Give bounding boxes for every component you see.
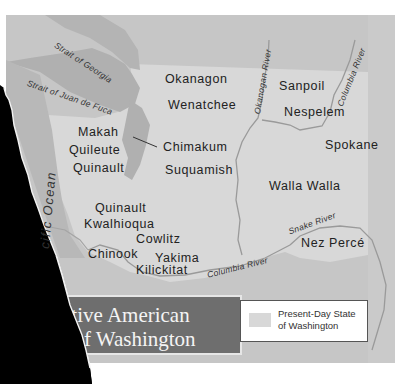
tribe-cowlitz: Cowlitz — [136, 232, 180, 246]
map-right-strip — [368, 15, 395, 363]
tribe-walla-walla: Walla Walla — [269, 179, 341, 193]
map-title-box: ative American s of Washington — [30, 295, 242, 355]
tribe-kilickitat: Kilickitat — [136, 263, 188, 277]
map-title-line-1: ative American — [62, 303, 190, 328]
tribe-nez-perce: Nez Percé — [301, 236, 365, 250]
tribe-kwalhioqua: Kwalhioqua — [84, 217, 155, 231]
tribe-sanpoil: Sanpoil — [279, 79, 325, 93]
legend-swatch-washington — [249, 313, 271, 327]
tribe-wenatchee: Wenatchee — [168, 98, 236, 112]
map-legend: Present-Day State of Washington — [240, 300, 368, 342]
tribe-nespelem: Nespelem — [284, 105, 345, 119]
tribe-spokane: Spokane — [325, 138, 379, 152]
tribe-makah: Makah — [78, 125, 119, 139]
tribe-okanagon: Okanagon — [165, 72, 227, 86]
tribe-quileute: Quileute — [69, 143, 120, 157]
tribe-chinook: Chinook — [88, 247, 138, 261]
map-title-line-2: s of Washington — [60, 327, 196, 352]
tribe-quinault-north: Quinault — [73, 161, 124, 175]
legend-label-line-2: of Washington — [278, 320, 338, 331]
tribe-chimakum: Chimakum — [163, 140, 228, 154]
legend-label-line-1: Present-Day State — [278, 308, 356, 319]
tribe-suquamish: Suquamish — [165, 163, 233, 177]
tribe-quinault-south: Quinault — [95, 201, 146, 215]
